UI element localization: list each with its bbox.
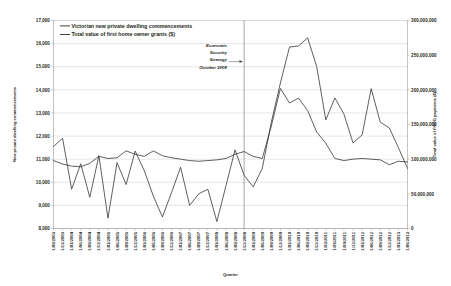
x-axis-tick-label: 1/09/2003 (51, 231, 56, 250)
x-axis-tick-label: 1/12/2010 (314, 231, 319, 250)
chart-container: 8,0009,00010,00011,00012,00013,00014,000… (0, 0, 451, 286)
y-axis-tick-label: 17,000 (36, 18, 50, 23)
legend-label-1: Total value of first home owner grants (… (72, 31, 176, 37)
x-axis-tick-label: 1/12/2011 (351, 231, 356, 250)
y-axis-tick-label: 11,000 (36, 157, 50, 162)
y-axis-left-title: New private dwelling commencements (12, 86, 17, 162)
x-axis-tick-label: 1/09/2004 (87, 231, 92, 250)
x-axis-tick-label: 1/06/2010 (296, 231, 301, 250)
x-axis-tick-label: 1/06/2008 (224, 231, 229, 250)
x-axis-tick-label: 1/09/2009 (269, 231, 274, 250)
x-axis-tick-label: 1/12/2005 (133, 231, 138, 250)
x-axis-tick-label: 1/09/2011 (342, 231, 347, 250)
x-axis-tick-label: 1/06/2013 (405, 231, 410, 250)
x-axis-tick-label: 1/12/2006 (169, 231, 174, 250)
x-axis-tick-label: 1/03/2012 (360, 231, 365, 250)
x-axis-tick-label: 1/09/2005 (124, 231, 129, 250)
y-axis-right-tick-label: 0 (411, 226, 414, 231)
annotation-line-2: Strategy (209, 57, 227, 62)
x-axis-tick-label: 1/03/2008 (214, 231, 219, 250)
x-axis-tick-label: 1/03/2009 (251, 231, 256, 250)
x-axis-tick-label: 1/03/2010 (287, 231, 292, 250)
y-axis-tick-label: 13,000 (36, 111, 50, 116)
y-axis-right-tick-label: 300,000,000 (411, 18, 437, 23)
x-axis-tick-label: 1/06/2006 (151, 231, 156, 250)
x-axis-title: Quarter (223, 272, 238, 277)
x-axis-tick-label: 1/12/2004 (96, 231, 101, 250)
y-axis-tick-label: 14,000 (36, 88, 50, 93)
x-axis-tick-label: 1/03/2011 (323, 231, 328, 250)
x-axis-tick-label: 1/03/2007 (178, 231, 183, 250)
y-axis-tick-label: 10,000 (36, 180, 50, 185)
annotation-line-1: Security (210, 50, 228, 55)
y-axis-right-tick-label: 50,000,000 (411, 192, 434, 197)
x-axis-tick-label: 1/03/2005 (106, 231, 111, 250)
plot-area (54, 21, 408, 229)
x-axis-tick-label: 1/03/2013 (396, 231, 401, 250)
dual-axis-line-chart: 8,0009,00010,00011,00012,00013,00014,000… (0, 0, 451, 286)
x-axis-tick-label: 1/09/2012 (378, 231, 383, 250)
x-axis-tick-label: 1/12/2003 (60, 231, 65, 250)
y-axis-tick-label: 8,000 (38, 226, 50, 231)
y-axis-tick-label: 12,000 (36, 134, 50, 139)
y-axis-tick-label: 9,000 (38, 203, 50, 208)
x-axis-tick-label: 1/06/2009 (260, 231, 265, 250)
x-axis-tick-label: 1/06/2007 (187, 231, 192, 250)
x-axis-tick-label: 1/09/2007 (196, 231, 201, 250)
x-axis-tick-label: 1/06/2005 (115, 231, 120, 250)
annotation-line-0: Economic (206, 43, 228, 48)
x-axis-tick-label: 1/12/2012 (387, 231, 392, 250)
annotation-line-3: October 2008 (199, 65, 227, 70)
x-axis-tick-label: 1/06/2011 (332, 231, 337, 250)
x-axis-tick-label: 1/03/2004 (69, 231, 74, 250)
x-axis-tick-label: 1/06/2012 (369, 231, 374, 250)
y-axis-right-tick-label: 250,000,000 (411, 53, 437, 58)
legend-label-0: Victorian new private dwelling commencem… (72, 23, 193, 29)
y-axis-right-title: Total value of FHOG payments ($) (432, 91, 437, 157)
x-axis-tick-label: 1/03/2006 (142, 231, 147, 250)
y-axis-tick-label: 16,000 (36, 41, 50, 46)
y-axis-tick-label: 15,000 (36, 64, 50, 69)
x-axis-tick-label: 1/09/2010 (305, 231, 310, 250)
x-axis-tick-label: 1/12/2008 (242, 231, 247, 250)
x-axis-tick-label: 1/06/2004 (78, 231, 83, 250)
x-axis-tick-label: 1/09/2006 (160, 231, 165, 250)
x-axis-tick-label: 1/12/2009 (278, 231, 283, 250)
x-axis-tick-label: 1/12/2007 (205, 231, 210, 250)
x-axis-tick-label: 1/09/2008 (233, 231, 238, 250)
